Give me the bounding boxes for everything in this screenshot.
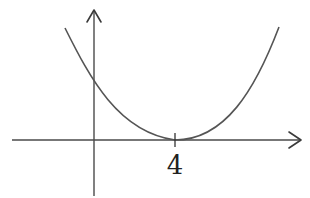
function-curve — [65, 27, 279, 140]
x-axis — [12, 132, 301, 148]
y-axis — [87, 10, 101, 196]
function-graph: 4 — [0, 0, 310, 198]
tick-label-4: 4 — [167, 150, 184, 180]
